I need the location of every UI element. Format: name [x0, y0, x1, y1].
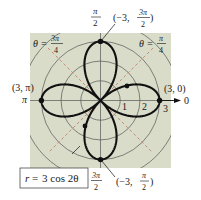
point-3-pi [39, 98, 44, 103]
point-3-0 [157, 98, 162, 103]
svg-text:4: 4 [159, 46, 163, 55]
svg-text:θ =: θ = [33, 38, 47, 49]
svg-text:4: 4 [54, 46, 58, 55]
polar-graph: 1 2 3 0 π 2 (−3, 3π 2 ) θ = 3π 4 θ = π 4… [0, 0, 201, 200]
svg-text:3 cos 2θ: 3 cos 2θ [42, 172, 78, 184]
point-extra-2 [83, 124, 88, 129]
label-pi: π [22, 94, 28, 105]
svg-text:): ) [150, 176, 153, 188]
svg-text:θ =: θ = [139, 38, 153, 49]
svg-text:(−3,: (−3, [116, 176, 132, 188]
arrow-icon [174, 98, 181, 103]
svg-text:(−3,: (−3, [113, 12, 129, 24]
svg-text:3π: 3π [138, 8, 148, 17]
svg-text:r: r [25, 172, 30, 184]
svg-text:π: π [142, 171, 147, 180]
point-extra-1 [125, 84, 130, 89]
tick-1: 1 [122, 101, 127, 112]
tick-2: 2 [142, 101, 147, 112]
label-point-neg3-3pi2: (−3, 3π 2 ) [113, 8, 153, 29]
svg-text:2: 2 [93, 18, 98, 28]
label-0: 0 [184, 95, 189, 106]
svg-text:=: = [32, 172, 38, 184]
svg-text:2: 2 [141, 20, 145, 29]
svg-text:3π: 3π [91, 171, 101, 180]
label-3pi-over-2: 3π 2 [91, 171, 102, 192]
svg-text:π: π [93, 6, 98, 16]
equation-label: r = 3 cos 2θ [20, 168, 88, 188]
svg-text:2: 2 [94, 183, 98, 192]
tick-3: 3 [163, 103, 168, 114]
label-pi-over-2: π 2 [91, 6, 101, 28]
label-point-3-pi: (3, π) [12, 82, 34, 94]
label-point-neg3-pi2: (−3, π 2 ) [116, 171, 153, 192]
svg-text:3π: 3π [50, 34, 60, 43]
label-point-3-0: (3, 0) [164, 83, 186, 95]
svg-text:2: 2 [142, 183, 146, 192]
svg-text:): ) [150, 12, 153, 24]
